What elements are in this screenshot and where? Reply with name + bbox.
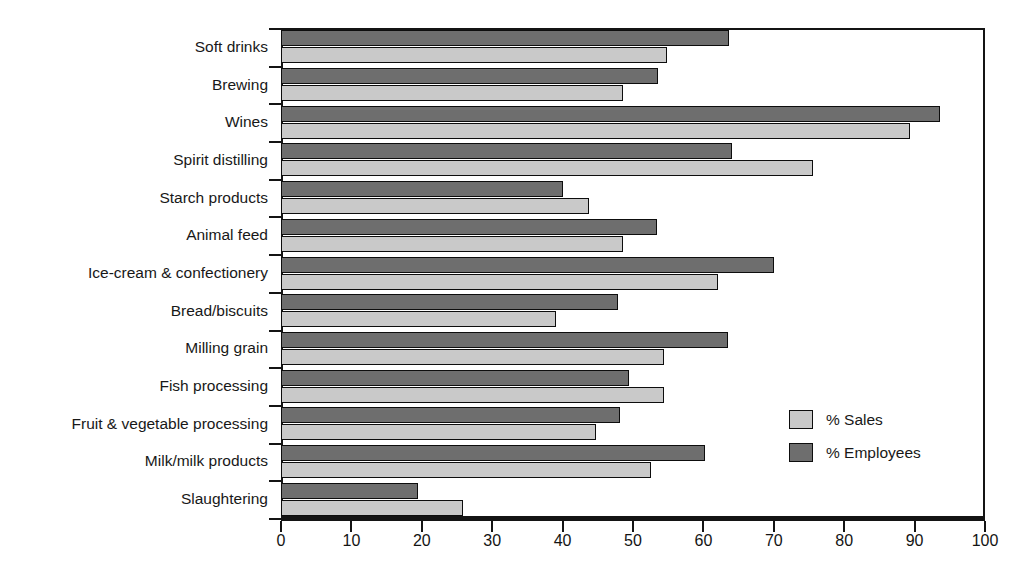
x-axis-tick bbox=[702, 521, 704, 532]
bar-employees bbox=[281, 445, 705, 461]
bar-sales bbox=[281, 462, 651, 478]
x-axis-tick bbox=[632, 521, 634, 532]
legend-item-sales: % Sales bbox=[789, 410, 969, 429]
x-axis-tick bbox=[984, 521, 986, 532]
x-axis-tick-label: 20 bbox=[413, 533, 431, 549]
bar-sales bbox=[281, 349, 664, 365]
bar-sales bbox=[281, 160, 813, 176]
x-axis-tick-label: 30 bbox=[483, 533, 501, 549]
x-axis-tick-label: 10 bbox=[342, 533, 360, 549]
bar-sales bbox=[281, 500, 463, 516]
bar-sales bbox=[281, 424, 596, 440]
category-label: Soft drinks bbox=[0, 39, 268, 55]
legend-swatch-sales-icon bbox=[789, 410, 813, 429]
bar-sales bbox=[281, 198, 589, 214]
category-label: Fruit & vegetable processing bbox=[0, 416, 268, 432]
category-label: Milling grain bbox=[0, 341, 268, 357]
bar-sales bbox=[281, 311, 556, 327]
legend-label-employees: % Employees bbox=[826, 445, 921, 461]
bar-employees bbox=[281, 68, 658, 84]
bar-employees bbox=[281, 332, 728, 348]
bar-sales bbox=[281, 387, 664, 403]
x-axis-tick bbox=[914, 521, 916, 532]
x-axis-tick-label: 90 bbox=[906, 533, 924, 549]
bar-sales bbox=[281, 47, 667, 63]
category-label: Wines bbox=[0, 114, 268, 130]
category-label: Spirit distilling bbox=[0, 152, 268, 168]
x-axis-tick bbox=[562, 521, 564, 532]
x-axis-tick-label: 70 bbox=[765, 533, 783, 549]
category-label: Ice-cream & confectionery bbox=[0, 265, 268, 281]
bar-employees bbox=[281, 483, 418, 499]
legend-item-employees: % Employees bbox=[789, 443, 969, 462]
x-axis-tick bbox=[421, 521, 423, 532]
x-axis-tick-label: 60 bbox=[694, 533, 712, 549]
x-axis-tick-label: 50 bbox=[624, 533, 642, 549]
legend-label-sales: % Sales bbox=[826, 412, 883, 428]
bar-sales bbox=[281, 236, 623, 252]
bar-employees bbox=[281, 30, 729, 46]
bar-chart: Soft drinksBrewingWinesSpirit distilling… bbox=[0, 0, 1032, 573]
category-label: Bread/biscuits bbox=[0, 303, 268, 319]
bar-employees bbox=[281, 143, 732, 159]
legend-swatch-employees-icon bbox=[789, 443, 813, 462]
x-axis-tick-label: 40 bbox=[554, 533, 572, 549]
x-axis-tick-label: 80 bbox=[835, 533, 853, 549]
bar-employees bbox=[281, 181, 563, 197]
category-label: Starch products bbox=[0, 190, 268, 206]
bar-sales bbox=[281, 274, 718, 290]
bar-employees bbox=[281, 257, 774, 273]
category-label: Brewing bbox=[0, 77, 268, 93]
legend: % Sales % Employees bbox=[789, 410, 969, 476]
bar-employees bbox=[281, 294, 618, 310]
bar-employees bbox=[281, 219, 657, 235]
bar-employees bbox=[281, 370, 629, 386]
x-axis-tick bbox=[773, 521, 775, 532]
x-axis-tick bbox=[280, 521, 282, 532]
bar-sales bbox=[281, 123, 910, 139]
bar-employees bbox=[281, 407, 620, 423]
x-axis-tick bbox=[350, 521, 352, 532]
x-axis-tick bbox=[843, 521, 845, 532]
category-label: Milk/milk products bbox=[0, 454, 268, 470]
bar-sales bbox=[281, 85, 623, 101]
bar-employees bbox=[281, 106, 940, 122]
x-axis-tick-label: 100 bbox=[972, 533, 999, 549]
category-label: Animal feed bbox=[0, 228, 268, 244]
category-label: Slaughtering bbox=[0, 491, 268, 507]
category-label: Fish processing bbox=[0, 378, 268, 394]
x-axis-tick bbox=[491, 521, 493, 532]
x-axis-tick-label: 0 bbox=[277, 533, 286, 549]
